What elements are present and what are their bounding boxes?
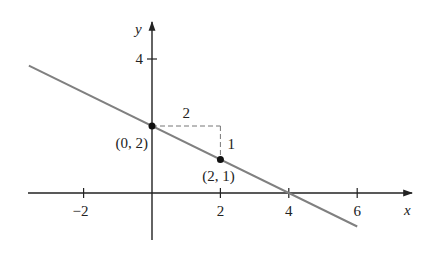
x-tick-label: 2 [217,203,225,219]
point-label: (2, 1) [202,168,235,185]
x-tick-label: 6 [353,203,361,219]
x-axis-label: x [403,202,411,218]
point-label: (0, 2) [116,135,149,152]
x-tick-label: −2 [73,203,89,219]
rise-label: 1 [227,136,235,152]
chart: −22464xy21(0, 2)(2, 1) [0,0,436,253]
labels: −22464xy21(0, 2)(2, 1) [73,21,411,219]
data-point [149,123,156,130]
x-tick-label: 4 [285,203,293,219]
y-axis-label: y [133,21,142,37]
y-tick-label: 4 [136,51,144,67]
data-point [217,156,224,163]
run-label: 2 [182,105,190,121]
